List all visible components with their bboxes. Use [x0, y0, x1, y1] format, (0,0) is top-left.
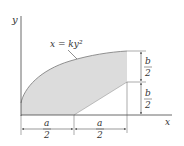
dim-label-bottom-right: a 2 [96, 118, 104, 140]
y-axis-label: y [11, 14, 18, 25]
x-axis-label: x [165, 117, 170, 127]
curve-leader [68, 50, 77, 59]
svg-text:b: b [145, 88, 151, 98]
svg-text:2: 2 [144, 68, 151, 78]
dim-label-right-bottom: b 2 [144, 88, 152, 110]
diagram-canvas: y x x = ky² b 2 b 2 a 2 a 2 [0, 0, 184, 146]
dim-label-right-top: b 2 [144, 56, 152, 78]
shaded-area [21, 51, 127, 115]
dim-label-bottom-left: a 2 [43, 118, 51, 140]
svg-text:a: a [97, 118, 102, 128]
svg-text:2: 2 [43, 130, 50, 140]
svg-text:2: 2 [144, 100, 151, 110]
curve-label: x = ky² [50, 39, 83, 49]
svg-text:a: a [44, 118, 49, 128]
svg-text:b: b [145, 56, 151, 66]
svg-text:2: 2 [96, 130, 103, 140]
